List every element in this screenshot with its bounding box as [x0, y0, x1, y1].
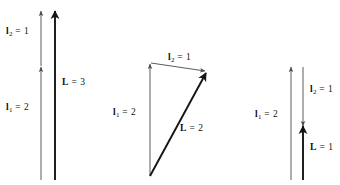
- label-L-parallel: L = 3: [62, 78, 86, 88]
- panel-antiparallel-graphics: [291, 67, 303, 180]
- label-l2-antiparallel: l2 = 1: [310, 85, 333, 96]
- label-L-triangle: L = 2: [180, 124, 204, 134]
- vector-l2-arrow-triangle: [151, 63, 205, 71]
- label-l2-triangle: l2 = 1: [168, 53, 191, 64]
- label-l1-triangle: l1 = 2: [113, 108, 136, 119]
- label-l2-parallel: l2 = 1: [6, 27, 29, 38]
- label-l1-parallel: l1 = 2: [6, 103, 29, 114]
- label-L-antiparallel: L = 1: [310, 143, 334, 153]
- panel-parallel-graphics: [41, 11, 55, 180]
- label-l1-antiparallel: l1 = 2: [255, 110, 278, 121]
- diagram-canvas: l2 = 1 l1 = 2 L = 3 l2 = 1 l1 = 2 L = 2 …: [0, 0, 340, 185]
- panel-triangle-graphics: [150, 63, 206, 176]
- vector-diagram-svg: [0, 0, 340, 185]
